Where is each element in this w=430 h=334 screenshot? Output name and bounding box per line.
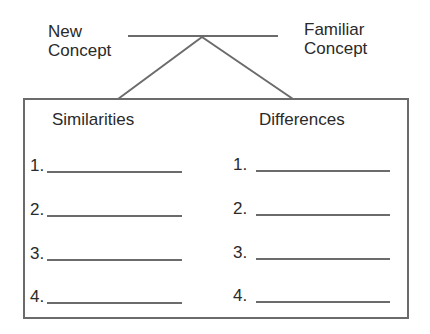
- similarity-item-4: 4.: [30, 287, 44, 307]
- difference-item-2: 2.: [233, 199, 247, 219]
- difference-item-3: 3.: [233, 243, 247, 263]
- similarity-item-3: 3.: [30, 244, 44, 264]
- similarities-header: Similarities: [52, 110, 134, 130]
- difference-item-4: 4.: [233, 286, 247, 306]
- difference-item-1: 1.: [233, 155, 247, 175]
- similarity-item-2: 2.: [30, 200, 44, 220]
- new-concept-label: New Concept: [48, 22, 111, 60]
- differences-header: Differences: [259, 110, 345, 130]
- similarity-item-1: 1.: [30, 156, 44, 176]
- familiar-concept-label: Familiar Concept: [304, 20, 367, 58]
